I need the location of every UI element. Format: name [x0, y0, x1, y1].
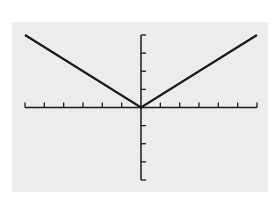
plot-area: [0, 0, 271, 202]
